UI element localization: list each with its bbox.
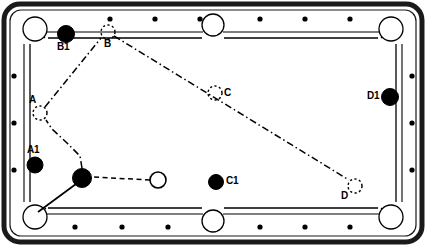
ball-C1 (209, 175, 224, 190)
table-svg (0, 0, 426, 246)
ball-A1 (27, 157, 43, 173)
top-right-pocket (379, 17, 403, 41)
label-A: A (29, 95, 36, 105)
top-middle-pocket (202, 14, 224, 36)
ball-D1 (382, 89, 399, 106)
pool-table-diagram: B1 A1 C1 D1 A B C D (0, 0, 426, 246)
table-frame-inner-edge (10, 10, 416, 236)
ball-B1 (58, 26, 75, 43)
label-B1: B1 (57, 42, 69, 52)
label-A1: A1 (27, 145, 39, 155)
top-left-pocket (23, 17, 47, 41)
label-C: C (224, 88, 231, 98)
label-D1: D1 (367, 91, 379, 101)
bottom-middle-pocket (202, 210, 224, 232)
label-D: D (341, 191, 348, 201)
bottom-right-pocket (379, 205, 403, 229)
ball-object (73, 169, 92, 188)
label-C1: C1 (226, 176, 238, 186)
label-B: B (104, 39, 111, 49)
ball-cue (150, 172, 166, 188)
